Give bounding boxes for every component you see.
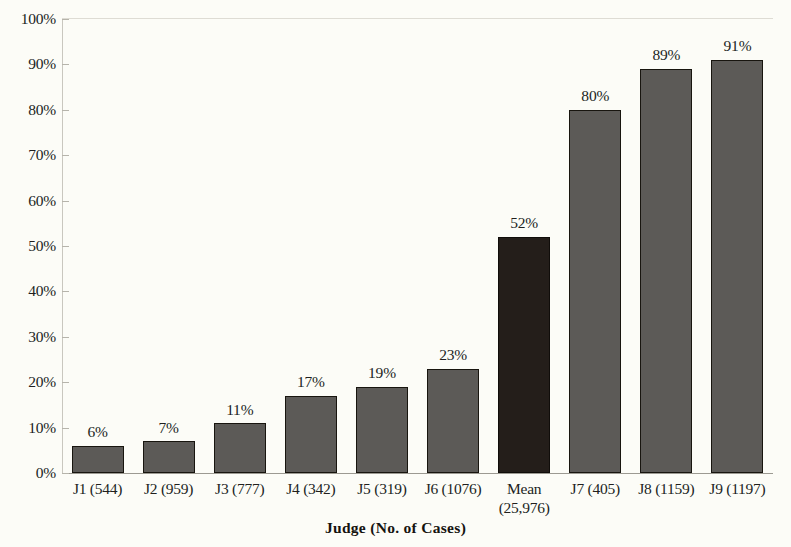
bar-group: 52%: [498, 19, 550, 473]
y-axis-tick-label: 20%: [4, 374, 56, 390]
bar[interactable]: [214, 423, 266, 473]
bar-value-label: 6%: [58, 424, 138, 440]
y-axis-tick-label: 100%: [4, 11, 56, 27]
bar-group: 23%: [427, 19, 479, 473]
y-axis-tick-label: 0%: [4, 465, 56, 481]
y-axis-tick-label: 10%: [4, 420, 56, 436]
bar-chart: 0%10%20%30%40%50%60%70%80%90%100% 6%7%11…: [0, 0, 791, 547]
y-axis-tick: [62, 473, 69, 474]
y-axis-tick-label: 60%: [4, 193, 56, 209]
x-axis-category-label: J5 (319): [346, 479, 417, 498]
y-axis-tick-label: 50%: [4, 238, 56, 254]
y-axis-tick-label: 70%: [4, 147, 56, 163]
bar[interactable]: [143, 441, 195, 473]
bar-group: 89%: [640, 19, 692, 473]
bar-group: 91%: [711, 19, 763, 473]
x-axis-category-label-line1: J7 (405): [571, 480, 620, 497]
bar-value-label: 17%: [271, 374, 351, 390]
plot-area: 6%7%11%17%19%23%52%80%89%91%: [62, 19, 773, 473]
bar[interactable]: [285, 396, 337, 473]
bar-value-label: 7%: [129, 420, 209, 436]
x-axis-category-label-line1: J3 (777): [215, 480, 264, 497]
bar-group: 11%: [214, 19, 266, 473]
x-axis-category-label: J3 (777): [204, 479, 275, 498]
bar[interactable]: [711, 60, 763, 473]
x-axis-category-label-line1: J8 (1159): [638, 480, 694, 497]
bar[interactable]: [72, 446, 124, 473]
bar[interactable]: [427, 369, 479, 473]
x-axis-category-label: J2 (959): [133, 479, 204, 498]
x-axis-category-label: J4 (342): [275, 479, 346, 498]
x-axis-category-label: J9 (1197): [702, 479, 773, 498]
x-axis-category-label: J1 (544): [62, 479, 133, 498]
x-axis-category-label-line1: J6 (1076): [425, 480, 482, 497]
x-axis-category-label-line1: J2 (959): [144, 480, 193, 497]
x-axis-category-label: J8 (1159): [631, 479, 702, 498]
bar-value-label: 11%: [200, 402, 280, 418]
x-axis-title: Judge (No. of Cases): [0, 519, 791, 537]
bar-value-label: 52%: [484, 215, 564, 231]
bar[interactable]: [569, 110, 621, 473]
bar-group: 19%: [356, 19, 408, 473]
x-axis-category-label-line2: (25,976): [489, 498, 560, 517]
bar[interactable]: [356, 387, 408, 473]
x-axis-category-label-line1: Mean: [507, 480, 541, 497]
bar-value-label: 89%: [626, 47, 706, 63]
bar-value-label: 19%: [342, 365, 422, 381]
bar-group: 80%: [569, 19, 621, 473]
y-axis-tick-label: 90%: [4, 57, 56, 73]
x-axis-category-label: Mean(25,976): [489, 479, 560, 517]
bar[interactable]: [640, 69, 692, 473]
bar-value-label: 80%: [555, 88, 635, 104]
x-axis-category-label-line1: J1 (544): [73, 480, 122, 497]
x-axis-category-label-line1: J4 (342): [286, 480, 335, 497]
bar-group: 17%: [285, 19, 337, 473]
x-axis-category-label: J7 (405): [560, 479, 631, 498]
bar-value-label: 23%: [413, 347, 493, 363]
x-axis-category-label: J6 (1076): [418, 479, 489, 498]
bar-value-label: 91%: [697, 38, 777, 54]
bar-mean[interactable]: [498, 237, 550, 473]
x-axis-category-label-line1: J9 (1197): [709, 480, 765, 497]
y-axis-tick-labels: 0%10%20%30%40%50%60%70%80%90%100%: [0, 0, 56, 547]
x-axis-category-label-line1: J5 (319): [357, 480, 406, 497]
bar-group: 7%: [143, 19, 195, 473]
y-axis-tick-label: 80%: [4, 102, 56, 118]
x-axis-line: [62, 473, 773, 474]
bar-group: 6%: [72, 19, 124, 473]
y-axis-tick-label: 30%: [4, 329, 56, 345]
y-axis-tick-label: 40%: [4, 284, 56, 300]
